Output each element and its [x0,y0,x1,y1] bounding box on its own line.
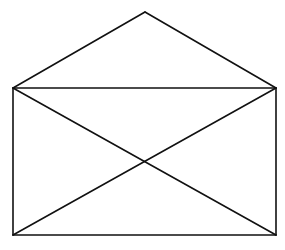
flap-left-edge [13,12,145,88]
flap-right-edge [145,12,276,88]
envelope-diagram [0,0,285,250]
diagram-lines [13,12,276,235]
envelope-figure [0,0,285,250]
